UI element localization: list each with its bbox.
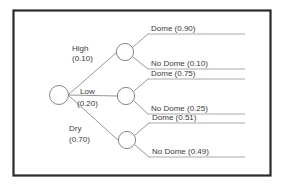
outcome-label-dry-nodome: No Dome (0.49) <box>152 147 209 156</box>
outcome-branch-high-dome <box>133 34 148 47</box>
outcome-branch-low-dome <box>134 79 148 91</box>
state-probability-dry: (0.70) <box>69 135 90 144</box>
outcome-label-high-dome: Dome (0.90) <box>151 24 196 33</box>
outcome-label-low-nodome: No Dome (0.25) <box>151 104 208 113</box>
outcome-label-low-dome: Dome (0.75) <box>151 69 196 78</box>
outcome-label-high-nodome: No Dome (0.10) <box>151 59 208 68</box>
state-label-low: Low <box>80 87 95 96</box>
state-probability-low: (0.20) <box>77 99 98 108</box>
root-chance-node <box>50 86 69 105</box>
decision-tree-figure: High (0.10) Low (0.20) Dry (0.70) Dome (… <box>0 0 284 188</box>
chance-node-low <box>117 87 134 104</box>
state-label-dry: Dry <box>69 124 81 133</box>
state-label-high: High <box>72 44 88 53</box>
chance-node-dry <box>118 131 135 148</box>
outcome-label-dry-dome: Dome (0.51) <box>152 113 197 122</box>
chance-node-high <box>116 43 133 60</box>
outcome-branch-high-nodome <box>133 57 148 69</box>
outcome-branch-dry-dome <box>135 123 149 135</box>
state-probability-high: (0.10) <box>72 54 93 63</box>
outcome-branch-dry-nodome <box>135 145 149 157</box>
outcome-branch-low-nodome <box>134 101 148 114</box>
tree-diagram: High (0.10) Low (0.20) Dry (0.70) Dome (… <box>0 0 284 188</box>
